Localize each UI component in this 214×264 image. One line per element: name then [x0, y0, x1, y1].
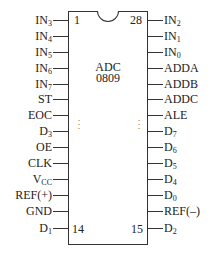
pin-label: IN5 [35, 45, 53, 59]
pin-label: D0 [163, 188, 177, 202]
right-pin-d6: D6 [148, 140, 177, 154]
pin-label: ST [38, 92, 53, 106]
pin-lead [148, 147, 163, 148]
pin-lead [148, 68, 163, 69]
pin-lead [53, 179, 68, 180]
left-pin-in3: IN3 [35, 13, 68, 27]
pin-label: IN6 [35, 61, 53, 75]
right-pin-in0: IN0 [148, 45, 181, 59]
chip-name-line2: 0809 [68, 73, 148, 84]
left-pin-in6: IN6 [35, 61, 68, 75]
pin-lead [148, 211, 163, 212]
pin-lead [148, 52, 163, 53]
pin-lead [148, 99, 163, 100]
pin-label: ALE [163, 108, 187, 122]
pin-label: D3 [39, 124, 53, 138]
pin-lead [53, 115, 68, 116]
pin-lead [53, 84, 68, 85]
left-ellipsis: ··· [77, 118, 81, 130]
pin-lead [148, 131, 163, 132]
pin-number-15: 15 [131, 222, 143, 236]
pin-label: D4 [163, 172, 177, 186]
left-pin-d3: D3 [39, 124, 68, 138]
pin-lead [148, 163, 163, 164]
pin-label: OE [36, 140, 53, 154]
pin-label: D5 [163, 156, 177, 170]
right-pin-d5: D5 [148, 156, 177, 170]
pin-label: ADDB [163, 77, 198, 91]
right-pin-d0: D0 [148, 188, 177, 202]
right-pin-in2: IN2 [148, 13, 181, 27]
pin-label: IN4 [35, 29, 53, 43]
right-pin-in1: IN1 [148, 29, 181, 43]
pin-lead [148, 179, 163, 180]
pin-lead [53, 68, 68, 69]
pin-label: VCC [33, 172, 53, 186]
pin-label: ADDC [163, 92, 198, 106]
pin-lead [148, 115, 163, 116]
pin-lead [53, 147, 68, 148]
right-pin-ref-: REF(–) [148, 204, 200, 218]
pin-lead [53, 131, 68, 132]
pin-label: ADDA [163, 61, 199, 75]
pin-label: IN0 [163, 45, 181, 59]
pin-label: IN2 [163, 13, 181, 27]
right-pin-addc: ADDC [148, 92, 198, 106]
right-pin-d7: D7 [148, 124, 177, 138]
pin-lead [148, 36, 163, 37]
pin-lead [53, 228, 68, 229]
pin-label: D7 [163, 124, 177, 138]
left-pin-clk: CLK [28, 156, 68, 170]
pin-label: IN7 [35, 77, 53, 91]
pin-label: GND [26, 204, 53, 218]
right-pin-ale: ALE [148, 108, 187, 122]
pin1-notch [97, 11, 119, 22]
left-pin-d1: D1 [39, 221, 68, 235]
left-pin-st: ST [38, 92, 68, 106]
right-ellipsis: ··· [137, 118, 141, 130]
right-pin-d4: D4 [148, 172, 177, 186]
right-pin-d2: D2 [148, 221, 177, 235]
pin-label: IN1 [163, 29, 181, 43]
left-pin-vcc: VCC [33, 172, 68, 186]
pin-lead [53, 36, 68, 37]
pin-lead [53, 211, 68, 212]
pin-label: EOC [28, 108, 53, 122]
pin-label: D1 [39, 221, 53, 235]
pin-lead [148, 228, 163, 229]
pin-lead [53, 52, 68, 53]
pin-label: REF(+) [15, 188, 53, 202]
left-pin-ref-: REF(+) [15, 188, 68, 202]
left-pin-gnd: GND [26, 204, 68, 218]
pin-lead [148, 195, 163, 196]
left-pin-in4: IN4 [35, 29, 68, 43]
left-pin-oe: OE [36, 140, 68, 154]
left-pin-eoc: EOC [28, 108, 68, 122]
pin-lead [148, 20, 163, 21]
left-pin-in5: IN5 [35, 45, 68, 59]
pin-label: IN3 [35, 13, 53, 27]
pin-label: CLK [28, 156, 53, 170]
pin-number-14: 14 [72, 222, 84, 236]
pin-lead [53, 20, 68, 21]
left-pin-in7: IN7 [35, 77, 68, 91]
pin-lead [53, 195, 68, 196]
pin-label: REF(–) [163, 204, 200, 218]
right-pin-addb: ADDB [148, 77, 198, 91]
pin-lead [148, 84, 163, 85]
pin-label: D6 [163, 140, 177, 154]
right-pin-adda: ADDA [148, 61, 199, 75]
pin-lead [53, 163, 68, 164]
pin-label: D2 [163, 221, 177, 235]
pin-number-28: 28 [130, 13, 142, 27]
pin-number-1: 1 [74, 13, 80, 27]
pin-lead [53, 99, 68, 100]
